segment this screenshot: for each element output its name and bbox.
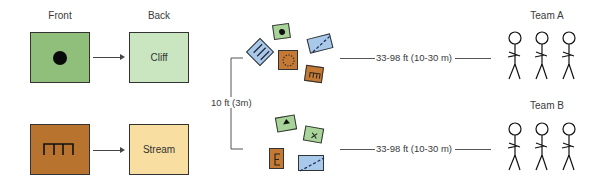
person-icon <box>535 123 548 170</box>
person-icon <box>562 123 575 170</box>
person-icon <box>508 123 521 170</box>
team-b-figures <box>0 0 607 183</box>
